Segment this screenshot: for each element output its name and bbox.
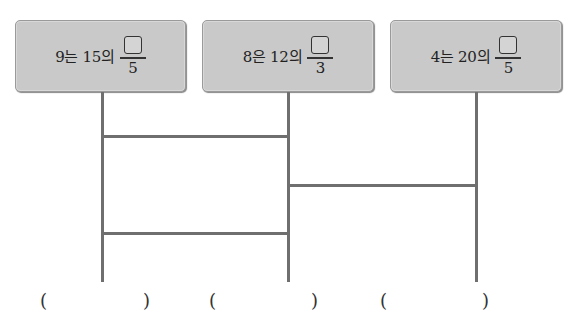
expression-2: 8은 12의 3 (243, 36, 334, 75)
expression-text: 8은 12의 (243, 45, 303, 66)
expression-text: 9는 15의 (55, 45, 115, 66)
fraction: 5 (495, 36, 521, 75)
answer-1-close-paren: ) (143, 290, 150, 311)
ladder-vertical-3 (475, 92, 478, 282)
ladder-rung-2 (288, 184, 477, 187)
numerator-blank[interactable] (124, 36, 142, 54)
denominator: 5 (128, 61, 137, 76)
expression-1: 9는 15의 5 (55, 36, 146, 75)
ladder-vertical-1 (101, 92, 104, 282)
ladder-vertical-2 (287, 92, 290, 282)
numerator-blank[interactable] (311, 36, 329, 54)
denominator: 5 (504, 61, 513, 76)
answer-2-close-paren: ) (311, 290, 318, 311)
ladder-rung-3 (102, 232, 289, 235)
answer-3-open-paren: ( (380, 290, 387, 311)
denominator: 3 (316, 61, 325, 76)
expression-3: 4는 20의 5 (431, 36, 522, 75)
ladder-rung-1 (102, 135, 289, 138)
answer-1-open-paren: ( (40, 290, 47, 311)
fraction: 3 (307, 36, 333, 75)
expression-text: 4는 20의 (431, 45, 491, 66)
problem-box-3: 4는 20의 5 (390, 20, 562, 92)
problem-box-2: 8은 12의 3 (202, 20, 374, 92)
problem-box-1: 9는 15의 5 (15, 20, 186, 92)
numerator-blank[interactable] (499, 36, 517, 54)
fraction: 5 (120, 36, 146, 75)
answer-2-open-paren: ( (209, 290, 216, 311)
answer-3-close-paren: ) (482, 290, 489, 311)
